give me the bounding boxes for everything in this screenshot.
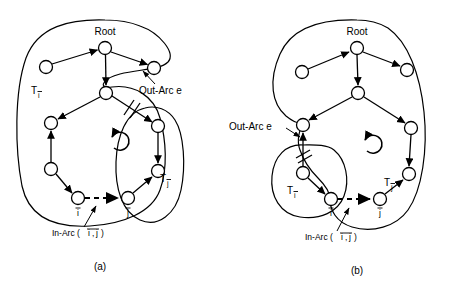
node-i-label-b: i <box>329 208 334 218</box>
svg-text:In-Arc (: In-Arc ( <box>305 232 333 242</box>
node-right-b-b <box>403 168 416 181</box>
in-arc-label-b: In-Arc ( i , j ) <box>305 232 357 242</box>
panel-a: Root T i T j i j <box>17 20 184 272</box>
edge-leftb-nodei-b <box>308 178 325 194</box>
out-arc-label-a: Out-Arc e <box>139 85 182 96</box>
edge-root-rightchild-b <box>363 52 400 66</box>
svg-text:j: j <box>166 180 169 188</box>
svg-text:i: i <box>294 192 296 199</box>
svg-text:): ) <box>354 232 357 242</box>
svg-text:j: j <box>378 208 381 218</box>
out-arc-label-b: Out-Arc e <box>229 121 272 132</box>
edge-nodej-rightb-a <box>133 177 152 193</box>
svg-text:i: i <box>38 92 40 99</box>
node-right-a-a <box>152 120 165 133</box>
tree-exchange-diagram: Root T i T j i j <box>0 0 456 296</box>
root-label-a: Root <box>94 26 115 37</box>
svg-text:j: j <box>95 228 98 238</box>
edge-junction-righta-b <box>364 97 405 123</box>
svg-text:,: , <box>92 228 94 238</box>
node-j-b <box>374 193 387 206</box>
edge-leftchild-root-a <box>52 50 98 64</box>
svg-text:j: j <box>126 208 129 218</box>
svg-text:,: , <box>345 232 347 242</box>
figure-container: Root T i T j i j <box>0 0 456 296</box>
node-left-b-a <box>45 163 58 176</box>
node-left-a-b <box>297 119 310 132</box>
edge-junction-lefta-b <box>309 97 352 120</box>
node-junction-a <box>100 87 113 100</box>
out-arc-cut-mark-1-a <box>124 100 134 115</box>
edge-junction-lefta-a <box>58 97 100 119</box>
svg-text:T: T <box>384 177 390 188</box>
node-left-child-a <box>40 61 53 74</box>
caption-b: (b) <box>351 265 363 276</box>
svg-text:i: i <box>88 228 90 238</box>
edge-leftb-nodei-a <box>56 174 72 193</box>
edge-righta-rightb-b <box>409 135 411 166</box>
svg-text:i: i <box>77 208 79 218</box>
panel-b: Root T i T j i j <box>229 20 425 276</box>
subtree-j-boundary-b <box>273 20 425 229</box>
edge-junction-righta-a <box>112 96 152 122</box>
svg-text:j: j <box>348 232 351 242</box>
node-left-a-a <box>45 117 58 130</box>
edge-root-rightchild-a <box>111 52 148 65</box>
svg-text:i: i <box>341 232 343 242</box>
svg-text:T: T <box>160 173 166 184</box>
node-j-label-b: j <box>378 208 383 218</box>
node-right-a-b <box>405 122 418 135</box>
subtree-i-label-b: T i <box>287 185 298 199</box>
subtree-i-label-a: T i <box>31 85 42 99</box>
svg-text:): ) <box>101 228 104 238</box>
edge-root-junction-b <box>357 55 358 85</box>
svg-text:i: i <box>330 208 332 218</box>
cycle-direction-arrow-b <box>365 135 382 153</box>
root-label-b: Root <box>346 26 367 37</box>
node-right-child-b <box>401 64 414 77</box>
node-i-label-a: i <box>76 208 81 218</box>
edge-root-junction-a <box>106 55 107 85</box>
node-left-b-b <box>297 167 310 180</box>
node-left-child-b <box>296 66 309 79</box>
node-junction-b <box>352 87 365 100</box>
node-j-a <box>122 192 135 205</box>
node-root-b <box>351 42 364 55</box>
node-right-child-a <box>148 62 161 75</box>
node-i-a <box>72 192 85 205</box>
in-arc-label-a: In-Arc ( i , j ) <box>52 228 104 238</box>
caption-a: (a) <box>94 261 106 272</box>
svg-text:j: j <box>390 184 393 192</box>
in-arc-leader-a <box>84 206 96 227</box>
edge-leftchild-root-b <box>308 52 349 69</box>
node-root-a <box>99 42 112 55</box>
svg-text:T: T <box>287 185 293 196</box>
svg-text:T: T <box>31 85 37 96</box>
svg-text:In-Arc (: In-Arc ( <box>52 228 80 238</box>
node-i-b <box>325 193 338 206</box>
